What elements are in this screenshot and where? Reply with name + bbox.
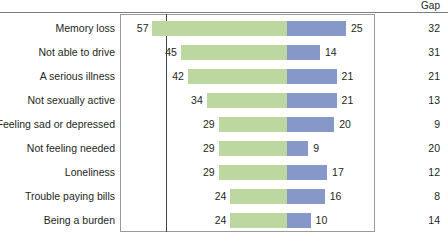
- bar-left-value: 34: [191, 93, 203, 108]
- bar-left: [219, 141, 287, 156]
- table-row: Not sexually active342113: [0, 89, 448, 113]
- row-category-label: Memory loss: [55, 21, 115, 36]
- table-row: Memory loss572532: [0, 17, 448, 41]
- table-row: Being a burden241014: [0, 209, 448, 233]
- gap-value: 31: [428, 45, 440, 60]
- paired-bar-chart: Gap Memory loss572532Not able to drive45…: [0, 0, 448, 245]
- bar-left: [230, 189, 287, 204]
- gap-value: 32: [428, 21, 440, 36]
- bar-left: [188, 69, 287, 84]
- bar-right: [287, 45, 320, 60]
- bar-right-value: 10: [316, 213, 328, 228]
- gap-value: 13: [428, 93, 440, 108]
- bar-left: [219, 117, 287, 132]
- bar-left: [219, 165, 287, 180]
- bar-right: [287, 21, 346, 36]
- chart-rows: Memory loss572532Not able to drive451431…: [0, 14, 448, 232]
- table-row: Loneliness291712: [0, 161, 448, 185]
- bar-right: [287, 213, 311, 228]
- bar-right: [287, 117, 334, 132]
- bar-left-value: 24: [215, 189, 227, 204]
- row-category-label: Being a burden: [44, 213, 115, 228]
- bar-right-value: 9: [313, 141, 319, 156]
- bar-left-value: 29: [203, 117, 215, 132]
- gap-value: 8: [434, 189, 440, 204]
- row-category-label: Feeling sad or depressed: [0, 117, 115, 132]
- bar-right-value: 21: [342, 69, 354, 84]
- bar-left: [207, 93, 287, 108]
- bar-right-value: 16: [330, 189, 342, 204]
- bar-left: [181, 45, 287, 60]
- row-category-label: Loneliness: [65, 165, 115, 180]
- table-row: Not feeling needed29920: [0, 137, 448, 161]
- gap-header-rule: [0, 12, 448, 13]
- row-category-label: Trouble paying bills: [25, 189, 115, 204]
- bar-left-value: 57: [137, 21, 149, 36]
- row-category-label: Not able to drive: [39, 45, 115, 60]
- bar-left-value: 29: [203, 141, 215, 156]
- bar-left: [230, 213, 287, 228]
- bar-right: [287, 165, 327, 180]
- gap-value: 12: [428, 165, 440, 180]
- gap-value: 20: [428, 141, 440, 156]
- bar-left: [152, 21, 287, 36]
- gap-value: 21: [428, 69, 440, 84]
- table-row: Trouble paying bills24168: [0, 185, 448, 209]
- bar-right: [287, 69, 337, 84]
- bar-left-value: 24: [215, 213, 227, 228]
- gap-column-header: Gap: [421, 0, 440, 12]
- bar-left-value: 29: [203, 165, 215, 180]
- bar-right-value: 21: [342, 93, 354, 108]
- table-row: Not able to drive451431: [0, 41, 448, 65]
- bar-right: [287, 189, 325, 204]
- row-category-label: Not feeling needed: [27, 141, 115, 156]
- bar-left-value: 45: [165, 45, 177, 60]
- bar-right-value: 14: [325, 45, 337, 60]
- bar-left-value: 42: [172, 69, 184, 84]
- bar-right-value: 20: [339, 117, 351, 132]
- bar-right-value: 17: [332, 165, 344, 180]
- gap-value: 14: [428, 213, 440, 228]
- bar-right: [287, 93, 337, 108]
- bar-right: [287, 141, 308, 156]
- gap-value: 9: [434, 117, 440, 132]
- row-category-label: A serious illness: [40, 69, 115, 84]
- table-row: Feeling sad or depressed29209: [0, 113, 448, 137]
- row-category-label: Not sexually active: [27, 93, 115, 108]
- bar-right-value: 25: [351, 21, 363, 36]
- table-row: A serious illness422121: [0, 65, 448, 89]
